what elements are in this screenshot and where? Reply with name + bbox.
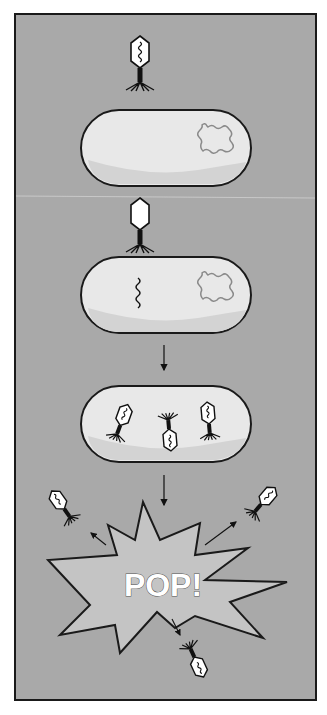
step-replication: [81, 386, 251, 462]
burst-text: POP!: [124, 567, 202, 603]
lytic-cycle-diagram: POP!: [0, 0, 327, 715]
